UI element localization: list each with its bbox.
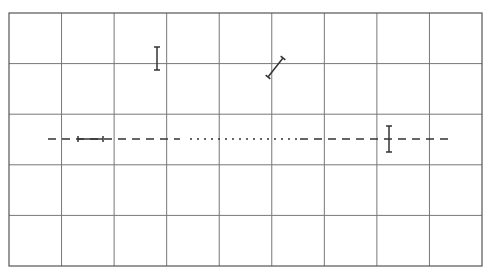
diagram-canvas bbox=[0, 0, 489, 276]
vertical-error-bar-top-icon bbox=[154, 47, 160, 70]
error-bar-markers bbox=[78, 47, 392, 152]
horizontal-error-bar-icon bbox=[78, 136, 103, 142]
diagonal-error-bar-icon bbox=[266, 56, 286, 79]
